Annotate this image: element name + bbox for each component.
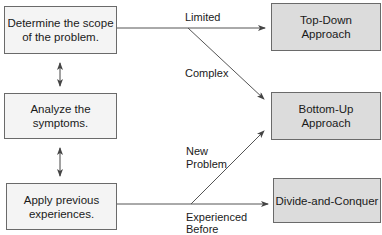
edge-complex-arrow [188, 28, 264, 99]
step-scope-line1: Determine the scope [7, 16, 113, 30]
step-experience-line1: Apply previous [24, 193, 99, 207]
edge-label-new-problem-1: New [186, 145, 208, 158]
approach-divide-line1: Divide-and-Conquer [276, 194, 379, 208]
approach-box-bottom-up: Bottom-Up Approach [271, 92, 381, 140]
approach-bottom-up-line1: Bottom-Up [299, 102, 354, 116]
step-symptoms-line2: symptoms. [30, 116, 90, 130]
approach-box-divide-and-conquer: Divide-and-Conquer [273, 178, 381, 223]
step-symptoms-line1: Analyze the [30, 102, 90, 116]
edge-label-new-problem-2: Problem [186, 158, 227, 171]
step-scope-line2: of the problem. [7, 30, 113, 44]
step-box-experience: Apply previous experiences. [6, 183, 117, 230]
step-experience-line2: experiences. [24, 207, 99, 221]
edge-label-experienced-2: Before [186, 223, 218, 235]
edge-label-complex: Complex [185, 67, 228, 80]
approach-top-down-line2: Approach [300, 27, 352, 41]
step-box-scope: Determine the scope of the problem. [4, 6, 117, 54]
approach-top-down-line1: Top-Down [300, 13, 352, 27]
edge-label-limited: Limited [185, 11, 220, 24]
approach-box-top-down: Top-Down Approach [271, 3, 381, 51]
approach-bottom-up-line2: Approach [299, 116, 354, 130]
step-box-symptoms: Analyze the symptoms. [4, 93, 117, 139]
